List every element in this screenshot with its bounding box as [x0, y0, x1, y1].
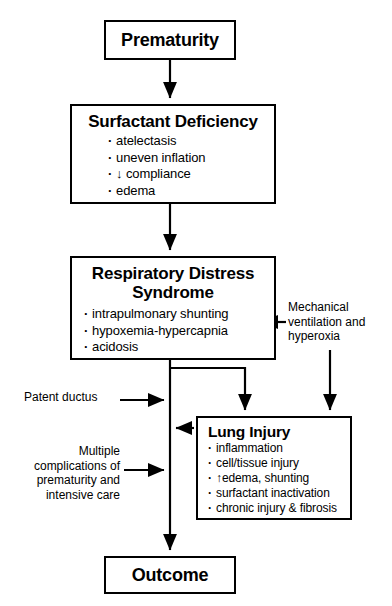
node-rds-title-line-2: Syndrome [72, 283, 274, 302]
label-mechanical-ventilation: Mechanical ventilation and hyperoxia [288, 300, 388, 344]
node-rds-title-line-1: Respiratory Distress [72, 264, 274, 283]
list-item: hypoxemia-hypercapnia [84, 323, 274, 340]
list-item: intrapulmonary shunting [84, 306, 274, 323]
node-surfactant-deficiency-title: Surfactant Deficiency [72, 112, 274, 131]
flowchart-canvas: Prematurity Surfactant Deficiency atelec… [0, 0, 392, 606]
label-patent-ductus: Patent ductus [24, 390, 124, 405]
list-item: edema [108, 183, 274, 200]
node-respiratory-distress-syndrome[interactable]: Respiratory Distress Syndrome intrapulmo… [70, 256, 276, 360]
node-respiratory-distress-syndrome-title: Respiratory Distress Syndrome [72, 264, 274, 302]
node-lung-injury-bullets: inflammation cell/tissue injury ↑edema, … [198, 441, 350, 516]
node-prematurity[interactable]: Prematurity [104, 20, 236, 60]
node-surfactant-deficiency[interactable]: Surfactant Deficiency atelectasis uneven… [70, 104, 276, 204]
list-item: acidosis [84, 339, 274, 356]
node-lung-injury-title: Lung Injury [198, 423, 350, 440]
edge-rds-to-lung-injury [170, 368, 245, 410]
node-prematurity-title: Prematurity [121, 30, 219, 50]
node-outcome[interactable]: Outcome [104, 556, 236, 594]
list-item: cell/tissue injury [208, 456, 350, 471]
list-item: ↓ compliance [108, 166, 274, 183]
list-item: atelectasis [108, 133, 274, 150]
node-lung-injury[interactable]: Lung Injury inflammation cell/tissue inj… [196, 416, 352, 520]
list-item: ↑edema, shunting [208, 471, 350, 486]
node-outcome-title: Outcome [132, 565, 209, 585]
list-item: uneven inflation [108, 150, 274, 167]
node-respiratory-distress-syndrome-bullets: intrapulmonary shunting hypoxemia-hyperc… [72, 306, 274, 356]
list-item: inflammation [208, 441, 350, 456]
label-multiple-complications: Multiple complications of prematurity an… [8, 444, 120, 503]
list-item: chronic injury & fibrosis [208, 501, 350, 516]
node-surfactant-deficiency-bullets: atelectasis uneven inflation ↓ complianc… [72, 133, 274, 200]
list-item: surfactant inactivation [208, 486, 350, 501]
